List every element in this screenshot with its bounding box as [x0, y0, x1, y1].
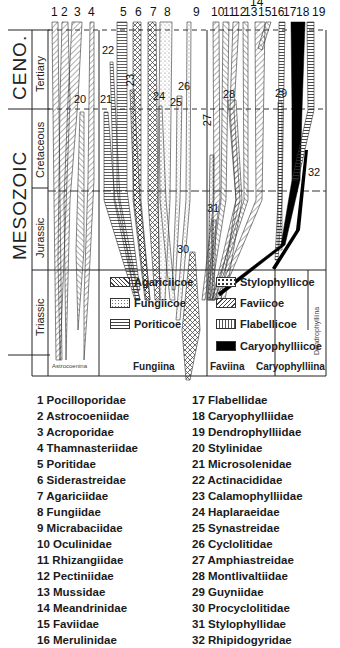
- era-label-mesozoic: MESOZOIC: [9, 151, 31, 260]
- suborder-fungiina: Fungiina: [133, 361, 175, 372]
- family-item: 19 Dendrophylliidae: [192, 424, 303, 440]
- family-item: 25 Synastreidae: [192, 520, 303, 536]
- family-item: 20 Stylinidae: [192, 440, 303, 456]
- family-label: 23: [124, 74, 136, 86]
- suborder-dendrophylliina: Dendrophylliina: [313, 307, 320, 355]
- family-item: 14 Meandrinidae: [37, 600, 138, 616]
- legend-label: Stylophyllicoe: [240, 276, 315, 288]
- family-item: 18 Caryophylliidae: [192, 408, 303, 424]
- family-item: 8 Fungiidae: [37, 504, 138, 520]
- phylogeny-diagram: CENO. MESOZOIC Tertiary Cretaceous Juras…: [0, 0, 340, 385]
- family-item: 1 Pocilloporidae: [37, 392, 138, 408]
- family-item: 3 Acroporidae: [37, 424, 138, 440]
- family-label: 27: [201, 114, 213, 126]
- legend-fungiicoe: Fungiicoe: [110, 297, 186, 309]
- family-label: 28: [223, 88, 235, 100]
- family-label: 32: [308, 166, 320, 178]
- family-item: 17 Flabellidae: [192, 392, 303, 408]
- family-item: 31 Stylophyllidae: [192, 616, 303, 632]
- family-label: 25: [170, 96, 182, 108]
- family-item: 23 Calamophylliidae: [192, 488, 303, 504]
- legend-label: Caryophylliicoe: [240, 340, 322, 352]
- family-item: 26 Cyclolitidae: [192, 536, 303, 552]
- family-list-left: 1 Pocilloporidae 2 Astrocoeniidae 3 Acro…: [37, 392, 138, 648]
- period-label-cretaceous: Cretaceous: [34, 122, 46, 178]
- family-item: 10 Oculinidae: [37, 536, 138, 552]
- family-item: 21 Microsolenidae: [192, 456, 303, 472]
- family-item: 29 Guyniidae: [192, 584, 303, 600]
- family-label: 29: [275, 87, 287, 99]
- family-item: 22 Actinacididae: [192, 472, 303, 488]
- family-label: 20: [74, 93, 86, 105]
- column-number: 9: [193, 5, 200, 19]
- column-number: 8: [164, 5, 171, 19]
- family-item: 28 Montlivaltiidae: [192, 568, 303, 584]
- family-label: 22: [102, 44, 114, 56]
- column-number: 4: [88, 5, 95, 19]
- ladder-swatch-icon: [216, 319, 236, 329]
- legend-label: Flabellicoe: [240, 318, 297, 330]
- suborder-caryophylliina: Caryophylliina: [256, 361, 325, 372]
- legend-poriticoe: Poriticoe: [110, 318, 181, 330]
- family-item: 32 Rhipidogyridae: [192, 632, 303, 648]
- column-number: 19: [312, 5, 325, 19]
- column-number: 15: [258, 5, 271, 19]
- solid-black-swatch-icon: [216, 341, 236, 351]
- suborder-astrocoenina: Astrocoenina: [52, 363, 87, 369]
- family-item: 4 Thamnasteriidae: [37, 440, 138, 456]
- period-label-jurassic: Jurassic: [34, 218, 46, 258]
- family-item: 16 Merulinidae: [37, 632, 138, 648]
- legend-label: Poriticoe: [134, 318, 181, 330]
- family-item: 30 Procyclolitidae: [192, 600, 303, 616]
- column-number: 3: [74, 5, 81, 19]
- family-item: 9 Micrabaciidae: [37, 520, 138, 536]
- period-label-triassic: Triassic: [34, 299, 46, 336]
- family-item: 11 Rhizangiidae: [37, 552, 138, 568]
- legend-flabellicoe: Flabellicoe: [216, 318, 297, 330]
- legend-agariciicoe: Agariciicoe: [110, 276, 193, 288]
- family-list-right: 17 Flabellidae 18 Caryophylliidae 19 Den…: [192, 392, 303, 648]
- column-number: 6: [135, 5, 142, 19]
- dotted-blocks-swatch-icon: [216, 277, 236, 287]
- legend-stylophyllicoe: Stylophyllicoe: [216, 276, 315, 288]
- column-number: 17: [283, 5, 296, 19]
- family-label: 30: [177, 243, 189, 255]
- period-label-tertiary: Tertiary: [34, 56, 46, 92]
- family-item: 27 Amphiastreidae: [192, 552, 303, 568]
- column-number: 18: [296, 5, 309, 19]
- family-label: 31: [207, 202, 219, 214]
- legend-label: Agariciicoe: [134, 276, 193, 288]
- family-item: 15 Faviidae: [37, 616, 138, 632]
- legend-faviicoe: Faviicoe: [216, 297, 284, 309]
- suborder-faviina: Faviina: [210, 361, 244, 372]
- family-item: 13 Mussidae: [37, 584, 138, 600]
- family-item: 7 Agariciidae: [37, 488, 138, 504]
- legend-label: Fungiicoe: [134, 297, 186, 309]
- column-number: 2: [61, 5, 68, 19]
- horizontal-lines-swatch-icon: [110, 319, 130, 329]
- family-item: 24 Haplaraeidae: [192, 504, 303, 520]
- family-label: 21: [100, 93, 112, 105]
- family-item: 5 Poritidae: [37, 456, 138, 472]
- family-label: 26: [178, 80, 190, 92]
- family-item: 12 Pectiniidae: [37, 568, 138, 584]
- column-number: 5: [120, 5, 127, 19]
- column-number: 1: [51, 5, 58, 19]
- diagonal-lines-swatch-icon: [216, 298, 236, 308]
- family-item: 6 Siderastreidae: [37, 472, 138, 488]
- family-item: 2 Astrocoeniidae: [37, 408, 138, 424]
- crosshatch-swatch-icon: [110, 277, 130, 287]
- stipple-swatch-icon: [110, 298, 130, 308]
- legend-caryophylliicoe: Caryophylliicoe: [216, 340, 322, 352]
- column-number: 7: [150, 5, 157, 19]
- legend-label: Faviicoe: [240, 297, 284, 309]
- era-label-cenozoic: CENO.: [9, 35, 31, 100]
- family-label: 24: [153, 90, 165, 102]
